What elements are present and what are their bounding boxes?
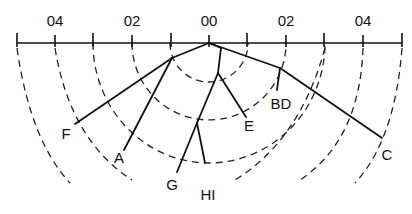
arc-r5-right <box>300 48 363 180</box>
tick-label-right-04: 04 <box>355 12 372 29</box>
leaf-label-G: G <box>166 176 178 193</box>
leaf-label-A: A <box>114 149 124 166</box>
axis <box>17 33 402 47</box>
leaf-label-E: E <box>244 117 254 134</box>
tick-label-left-04: 04 <box>47 12 64 29</box>
arc-r5-left <box>17 48 70 183</box>
tick-label-left-02: 02 <box>124 12 141 29</box>
dendrogram-diagram: 04 02 00 02 04 F A G HI E BD C <box>0 0 412 214</box>
arc-r6-right <box>355 48 402 183</box>
leaf-label-HI: HI <box>201 186 216 203</box>
leaf-label-C: C <box>382 146 393 163</box>
leaf-label-BD: BD <box>271 95 292 112</box>
tick-label-00: 00 <box>201 12 218 29</box>
arc-r1 <box>170 43 248 82</box>
leaf-label-F: F <box>61 125 70 142</box>
tick-label-right-02: 02 <box>278 12 295 29</box>
